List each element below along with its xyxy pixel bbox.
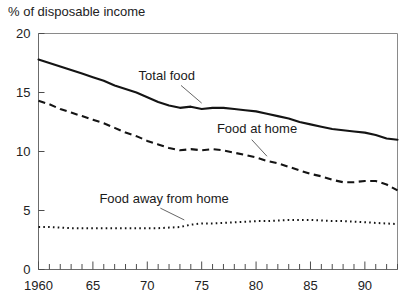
- x-tick-label: 1960: [24, 278, 53, 293]
- y-tick-label: 20: [16, 26, 30, 41]
- series-label: Food at home: [217, 121, 297, 136]
- y-tick-label: 5: [23, 203, 30, 218]
- series-label: Food away from home: [99, 191, 228, 206]
- y-tick-label: 10: [16, 144, 30, 159]
- x-tick-label: 65: [86, 278, 100, 293]
- y-tick-label: 15: [16, 85, 30, 100]
- chart-background: [0, 0, 412, 304]
- x-tick-label: 80: [249, 278, 263, 293]
- x-tick-label: 70: [140, 278, 154, 293]
- x-tick-label: 75: [194, 278, 208, 293]
- line-chart: % of disposable income 05101520 19606570…: [0, 0, 412, 304]
- y-tick-label: 0: [23, 262, 30, 277]
- y-axis-title: % of disposable income: [8, 4, 145, 19]
- x-tick-label: 90: [358, 278, 372, 293]
- x-tick-label: 85: [303, 278, 317, 293]
- chart-figure: % of disposable income 05101520 19606570…: [0, 0, 412, 304]
- series-label: Total food: [139, 68, 195, 83]
